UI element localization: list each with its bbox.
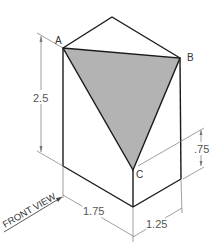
- point-label-c: C: [136, 169, 143, 180]
- isometric-drawing: 2.5 1.75 1.25 .75 A B C FRONT VIEW: [0, 0, 211, 252]
- point-label-b: B: [187, 52, 194, 63]
- front-width-dimension: 1.75: [83, 205, 104, 217]
- side-width-dimension: 1.25: [146, 218, 167, 230]
- c-height-arrow-bottom: [200, 161, 203, 166]
- c-height-extension-bottom: [183, 167, 204, 179]
- height-dimension: 2.5: [33, 92, 48, 104]
- height-extension-bottom: [37, 151, 63, 166]
- height-arrow-top: [40, 36, 43, 42]
- point-label-a: A: [55, 35, 62, 46]
- c-height-dimension: .75: [194, 143, 209, 155]
- c-height-arrow-top: [200, 130, 203, 135]
- front-view-label: FRONT VIEW: [1, 190, 58, 229]
- height-arrow-bottom: [40, 146, 43, 152]
- right-vertical-edge: [180, 58, 181, 179]
- bottom-edges: [63, 166, 181, 207]
